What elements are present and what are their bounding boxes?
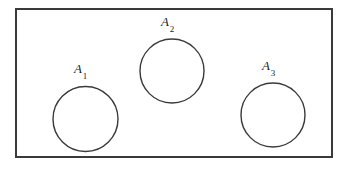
venn-diagram-canvas: [0, 0, 349, 174]
set-circle-a3: [241, 83, 305, 147]
set-label-a3-base: A: [262, 58, 270, 73]
set-label-a3-subscript: 3: [271, 68, 276, 78]
set-circle-a2: [140, 39, 204, 103]
set-label-a2-subscript: 2: [170, 24, 175, 34]
venn-diagram-figure: A1 A2 A3: [0, 0, 349, 174]
set-label-a1-subscript: 1: [83, 71, 88, 81]
set-label-a1: A1: [74, 62, 87, 79]
set-circle-a1: [53, 87, 118, 152]
set-label-a2: A2: [161, 15, 174, 32]
set-label-a2-base: A: [161, 14, 169, 29]
set-label-a3: A3: [262, 59, 275, 76]
set-label-a1-base: A: [74, 61, 82, 76]
